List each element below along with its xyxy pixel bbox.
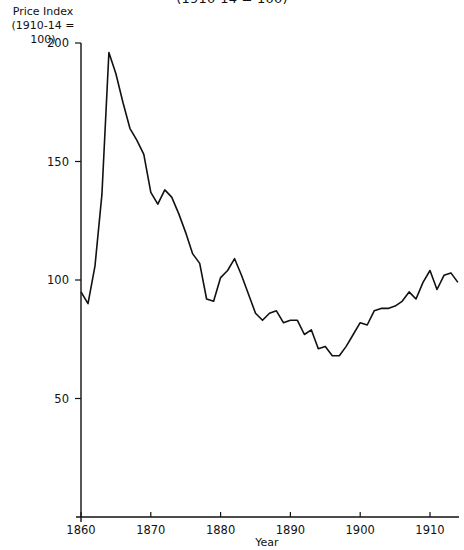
y-tick-label: 100	[47, 273, 69, 287]
x-tick-label: 1860	[66, 523, 95, 537]
price-index-line-chart: 50100150200186018701880189019001910 Year	[0, 0, 464, 550]
x-axis-label: Year	[254, 536, 279, 549]
price-index-series-line	[81, 53, 458, 356]
chart-axes	[76, 43, 459, 522]
y-tick-label: 50	[54, 392, 69, 406]
y-tick-label: 200	[47, 36, 69, 50]
x-tick-label: 1870	[136, 523, 165, 537]
x-tick-label: 1910	[415, 523, 444, 537]
x-tick-label: 1900	[346, 523, 375, 537]
x-tick-label: 1890	[276, 523, 305, 537]
x-tick-label: 1880	[206, 523, 235, 537]
y-tick-label: 150	[47, 155, 69, 169]
